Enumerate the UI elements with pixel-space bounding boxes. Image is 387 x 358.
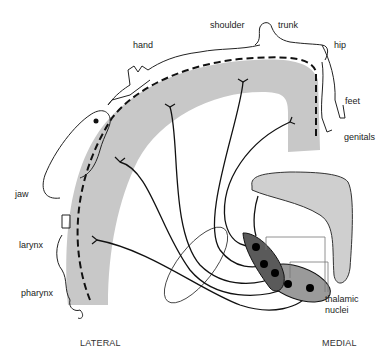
label-shoulder: shoulder: [210, 20, 245, 30]
label-trunk: trunk: [278, 20, 298, 30]
label-genitals: genitals: [344, 132, 375, 142]
label-jaw: jaw: [15, 189, 29, 199]
label-medial: MEDIAL: [322, 338, 357, 348]
label-thalamic: thalamic: [325, 294, 359, 304]
label-lateral: LATERAL: [80, 338, 121, 348]
label-feet: feet: [345, 96, 360, 106]
label-hip: hip: [334, 40, 346, 50]
label-larynx: larynx: [19, 240, 43, 250]
label-pharynx: pharynx: [21, 288, 53, 298]
label-hand: hand: [133, 40, 153, 50]
homunculus-eye: [94, 119, 99, 124]
label-nuclei: nuclei: [325, 305, 349, 315]
